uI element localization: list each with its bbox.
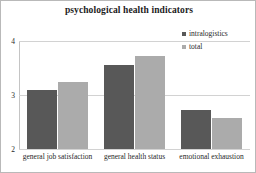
bar xyxy=(27,90,57,149)
bars-layer xyxy=(19,41,250,149)
x-axis-label: general health status xyxy=(96,152,173,161)
bar xyxy=(135,56,165,149)
bar xyxy=(104,65,134,149)
bar-group xyxy=(96,41,173,149)
y-tick-label: 4 xyxy=(11,37,19,46)
chart-title: psychological health indicators xyxy=(1,5,256,15)
x-axis-labels: general job satisfactiongeneral health s… xyxy=(19,151,250,169)
chart-container: psychological health indicators intralog… xyxy=(0,0,256,173)
bar xyxy=(181,110,211,149)
x-axis-label: emotional exhaustion xyxy=(173,152,250,161)
y-tick-label: 2 xyxy=(11,145,19,154)
x-axis-label: general job satisfaction xyxy=(19,152,96,161)
legend-label: intralogistics xyxy=(189,29,228,38)
bar-group xyxy=(173,41,250,149)
legend-swatch-icon xyxy=(182,32,186,36)
legend-item[interactable]: intralogistics xyxy=(182,28,254,39)
bar-group xyxy=(19,41,96,149)
plot-area: 234 xyxy=(19,41,250,149)
bar xyxy=(58,82,88,150)
y-tick-label: 3 xyxy=(11,91,19,100)
gridline xyxy=(19,149,250,150)
bar xyxy=(212,118,242,149)
